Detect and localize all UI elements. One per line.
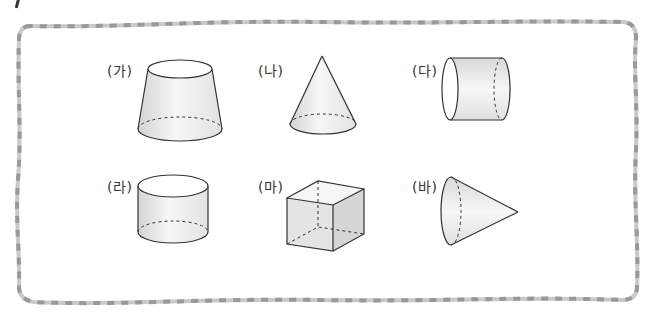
shape-cone-horizontal bbox=[441, 177, 518, 245]
shape-label-ma: (마) bbox=[258, 176, 283, 196]
shape-label-ra: (라) bbox=[107, 176, 132, 196]
shape-cylinder-horizontal bbox=[442, 58, 510, 120]
shape-truncated-cone bbox=[138, 60, 222, 141]
shape-cone bbox=[290, 56, 356, 134]
shape-label-da: (다) bbox=[412, 60, 437, 80]
shape-label-ba: (바) bbox=[412, 176, 437, 196]
shape-label-ga: (가) bbox=[107, 60, 132, 80]
wavy-dashed-frame bbox=[0, 0, 652, 316]
shape-label-na: (나) bbox=[258, 60, 283, 80]
shape-cube bbox=[287, 181, 364, 251]
shape-cylinder bbox=[138, 175, 208, 243]
